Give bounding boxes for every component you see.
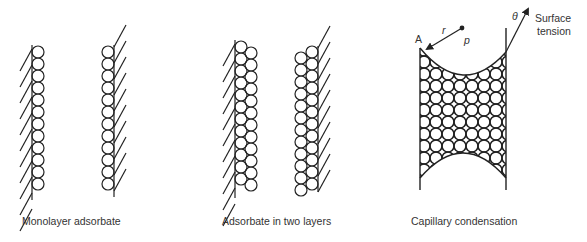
label-radius: r bbox=[442, 24, 446, 36]
caption-monolayer: Monolayer adsorbate bbox=[22, 215, 121, 227]
label-point-a: A bbox=[415, 33, 422, 45]
monolayer-left-wall bbox=[20, 45, 44, 231]
monolayer-right-wall bbox=[102, 25, 126, 197]
label-surface-tension-2: tension bbox=[537, 25, 571, 37]
caption-capillary: Capillary condensation bbox=[411, 215, 517, 227]
adsorption-diagram bbox=[0, 0, 587, 242]
label-surface-tension-1: Surface bbox=[535, 12, 571, 24]
caption-two-layers: Adsorbate in two layers bbox=[222, 215, 331, 227]
two-layer-left-wall bbox=[223, 40, 257, 226]
capillary-condensate bbox=[418, 28, 514, 200]
two-layer-right-wall bbox=[295, 26, 330, 196]
point-p-dot bbox=[460, 26, 465, 31]
label-theta: θ bbox=[512, 10, 518, 22]
label-pressure: p bbox=[464, 34, 470, 46]
